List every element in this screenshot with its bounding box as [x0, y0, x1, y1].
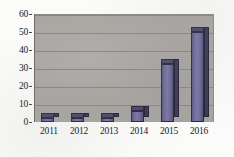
bar-2016	[191, 27, 209, 122]
bar-2011	[41, 113, 59, 122]
bar-side-face	[174, 59, 179, 117]
y-axis-tick-label: 40	[19, 45, 28, 55]
bar-side-face	[84, 113, 89, 117]
bar-top-face	[191, 27, 204, 32]
bar-side-face	[54, 113, 59, 117]
bar-2012	[71, 113, 89, 122]
y-axis-tick-label: 60	[19, 9, 28, 19]
y-axis-tick	[29, 32, 32, 33]
plot-area	[34, 14, 214, 122]
bar-front-face	[131, 111, 144, 122]
bar-top-face	[101, 113, 114, 118]
y-axis-tick	[29, 68, 32, 69]
y-axis-tick-label: 20	[19, 81, 28, 91]
y-axis-tick	[29, 104, 32, 105]
bar-front-face	[71, 118, 84, 122]
x-axis-tick-label: 2011	[40, 126, 58, 136]
y-axis-tick	[29, 86, 32, 87]
bar-chart: 0102030405060 201120122013201420152016	[0, 0, 234, 157]
x-axis-tick-label: 2015	[160, 126, 178, 136]
bar-side-face	[144, 106, 149, 117]
bar-2014	[131, 106, 149, 122]
x-axis-tick-label: 2016	[190, 126, 208, 136]
bar-front-face	[101, 118, 114, 122]
y-axis-tick-label: 50	[19, 27, 28, 37]
y-axis-tick-label: 30	[19, 63, 28, 73]
y-axis-tick-label: 0	[23, 117, 28, 127]
y-axis-tick-label: 10	[19, 99, 28, 109]
bar-top-face	[71, 113, 84, 118]
bar-top-face	[161, 59, 174, 64]
bar-top-face	[131, 106, 144, 111]
bars	[35, 15, 213, 122]
bar-2013	[101, 113, 119, 122]
bar-2015	[161, 59, 179, 122]
y-axis-tick	[29, 122, 32, 123]
bar-front-face	[41, 118, 54, 122]
y-axis-tick	[29, 14, 32, 15]
bar-side-face	[204, 27, 209, 117]
y-axis: 0102030405060	[0, 14, 32, 122]
x-axis-tick-label: 2013	[100, 126, 118, 136]
bar-front-face	[191, 32, 204, 122]
x-axis-tick-label: 2012	[70, 126, 88, 136]
bar-front-face	[161, 64, 174, 122]
bar-side-face	[114, 113, 119, 117]
x-axis-tick-label: 2014	[130, 126, 148, 136]
x-axis: 201120122013201420152016	[34, 126, 214, 144]
bar-top-face	[41, 113, 54, 118]
y-axis-tick	[29, 50, 32, 51]
